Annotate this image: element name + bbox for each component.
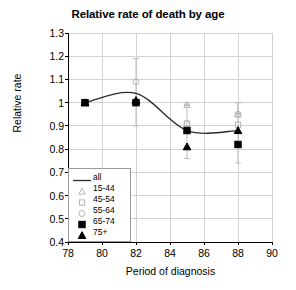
legend-item-label: 55-64	[93, 205, 115, 216]
legend-item-label: 45-54	[93, 194, 115, 205]
data-point-65-74	[235, 141, 241, 147]
legend-item: 55-64	[71, 205, 128, 216]
plot-area	[0, 0, 296, 290]
legend-item: 15-44	[71, 183, 128, 194]
legend-marker-square-open-icon	[71, 194, 93, 205]
legend-marker-line-icon	[71, 172, 93, 183]
legend-marker-diamond-open-icon	[71, 205, 93, 216]
legend-item-label: 65-74	[93, 216, 115, 227]
data-point-75+	[183, 143, 191, 150]
series-line-all	[85, 92, 238, 133]
legend-marker-square-filled-icon	[71, 216, 93, 227]
chart-legend: all15-4445-5455-6465-7475+	[68, 168, 131, 242]
legend-marker-triangle-filled-icon	[71, 227, 93, 238]
legend-item-label: all	[93, 172, 102, 183]
legend-item: 65-74	[71, 216, 128, 227]
chart-container: Relative rate of death by age Relative r…	[0, 0, 296, 290]
data-point-65-74	[184, 127, 190, 133]
legend-item: 45-54	[71, 194, 128, 205]
legend-item-label: 15-44	[93, 183, 115, 194]
legend-marker-triangle-open-icon	[71, 183, 93, 194]
legend-item: 75+	[71, 227, 128, 238]
legend-item: all	[71, 172, 128, 183]
legend-item-label: 75+	[93, 227, 107, 238]
